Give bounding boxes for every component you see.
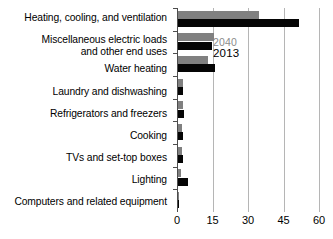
category-label: Heating, cooling, and ventilation <box>24 12 167 24</box>
bar-2040-2 <box>178 56 208 64</box>
gridline <box>319 8 320 212</box>
category-axis-labels: Heating, cooling, and ventilation Miscel… <box>0 0 172 212</box>
category-tick-mark <box>173 31 177 32</box>
x-tick-label: 60 <box>313 214 325 227</box>
category-tick-mark <box>173 121 177 122</box>
bar-2040-8 <box>178 192 179 200</box>
bar-2040-6 <box>178 147 182 155</box>
category-label: Cooking <box>130 130 167 142</box>
bar-2040-0 <box>178 11 259 19</box>
x-axis-tick-labels: 015304560 <box>177 214 327 230</box>
category-label: Computers and related equipment <box>14 196 167 208</box>
bar-2013-2 <box>178 64 215 72</box>
x-tick-label: 30 <box>242 214 254 227</box>
category-tick-mark <box>173 167 177 168</box>
bar-2040-7 <box>178 169 181 177</box>
category-tick-mark <box>173 53 177 54</box>
category-tick-mark <box>173 99 177 100</box>
bar-2013-6 <box>178 155 183 163</box>
x-tick-label: 45 <box>277 214 289 227</box>
category-tick-mark <box>173 76 177 77</box>
category-tick-mark <box>173 189 177 190</box>
bar-2013-4 <box>178 110 184 118</box>
category-label: Laundry and dishwashing <box>53 86 167 98</box>
bar-2040-5 <box>178 124 182 132</box>
gridline <box>248 8 249 212</box>
bar-2013-7 <box>178 178 188 186</box>
bar-2013-1 <box>178 42 212 50</box>
bar-2013-3 <box>178 87 183 95</box>
legend-entry-2013: 2013 <box>213 47 239 59</box>
x-tick-label: 15 <box>206 214 218 227</box>
bar-chart: Heating, cooling, and ventilation Miscel… <box>0 0 333 239</box>
category-tick-mark <box>173 144 177 145</box>
category-label: TVs and set-top boxes <box>66 152 167 164</box>
bar-2040-4 <box>178 101 183 109</box>
plot-area <box>177 8 319 212</box>
category-label: Refrigerators and freezers <box>50 108 167 120</box>
category-label: Lighting <box>132 174 167 186</box>
bar-2040-3 <box>178 79 183 87</box>
bar-2040-1 <box>178 33 214 41</box>
category-label: Miscellaneous electric loads and other e… <box>42 34 167 57</box>
category-tick-mark <box>173 8 177 9</box>
bar-2013-5 <box>178 132 183 140</box>
x-tick-label: 0 <box>174 214 180 227</box>
bar-2013-0 <box>178 19 299 27</box>
category-label: Water heating <box>105 63 167 75</box>
gridline <box>284 8 285 212</box>
bar-2013-8 <box>178 200 179 208</box>
